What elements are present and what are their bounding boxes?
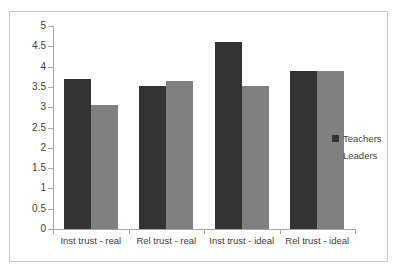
y-axis-tick-label: 4 bbox=[14, 62, 46, 72]
y-axis-tick bbox=[48, 67, 53, 68]
y-axis-tick-label-text: 1.5 bbox=[18, 163, 46, 173]
legend-swatch-icon bbox=[332, 135, 339, 142]
y-axis-tick bbox=[48, 87, 53, 88]
y-axis-tick bbox=[48, 168, 53, 169]
bar-teachers-rel-trust-real[interactable] bbox=[139, 86, 166, 229]
x-axis-tick bbox=[204, 229, 205, 234]
y-axis-tick-label-text: 4 bbox=[18, 62, 46, 72]
bar-leaders-inst-trust-ideal[interactable] bbox=[242, 86, 269, 229]
y-axis-tick-label: 1 bbox=[14, 183, 46, 193]
y-axis-tick-label-text: 4.5 bbox=[18, 41, 46, 51]
legend-item-leaders[interactable]: Leaders bbox=[332, 147, 392, 164]
y-axis-tick bbox=[48, 128, 53, 129]
x-axis-category-label: Rel trust - ideal bbox=[280, 236, 356, 246]
y-axis-tick bbox=[48, 46, 53, 47]
x-axis-tick bbox=[53, 229, 54, 234]
bar-teachers-inst-trust-real[interactable] bbox=[64, 79, 91, 229]
y-axis-tick bbox=[48, 188, 53, 189]
bar-group bbox=[215, 26, 269, 229]
chart-container: 54.543.532.521.510.50 Inst trust - realR… bbox=[9, 11, 388, 262]
bar-group bbox=[139, 26, 193, 229]
y-axis-tick-label: 0.5 bbox=[14, 204, 46, 214]
bar-group bbox=[290, 26, 344, 229]
legend-label: Teachers bbox=[343, 134, 382, 144]
x-axis-category-label: Inst trust - real bbox=[53, 236, 129, 246]
y-axis-line bbox=[53, 26, 54, 230]
bar-teachers-rel-trust-ideal[interactable] bbox=[290, 71, 317, 229]
chart-legend: TeachersLeaders bbox=[332, 130, 392, 164]
x-axis-tick bbox=[129, 229, 130, 234]
y-axis-tick-label-text: 5 bbox=[18, 21, 46, 31]
bar-leaders-rel-trust-real[interactable] bbox=[166, 81, 193, 229]
y-axis-tick-label: 4.5 bbox=[14, 41, 46, 51]
y-axis-tick bbox=[48, 26, 53, 27]
y-axis-tick-label-text: 0.5 bbox=[18, 204, 46, 214]
y-axis-tick-label-text: 3 bbox=[18, 102, 46, 112]
y-axis-tick-label: 1.5 bbox=[14, 163, 46, 173]
x-axis-category-label: Inst trust - ideal bbox=[204, 236, 280, 246]
legend-label: Leaders bbox=[343, 151, 377, 161]
y-axis-tick-label-text: 0 bbox=[18, 224, 46, 234]
legend-swatch-icon bbox=[332, 152, 339, 159]
y-axis-tick-label: 2 bbox=[14, 143, 46, 153]
y-axis-tick-label: 3.5 bbox=[14, 82, 46, 92]
y-axis-tick-label-text: 3.5 bbox=[18, 82, 46, 92]
bar-teachers-inst-trust-ideal[interactable] bbox=[215, 42, 242, 229]
legend-item-teachers[interactable]: Teachers bbox=[332, 130, 392, 147]
y-axis-tick-label: 0 bbox=[14, 224, 46, 234]
bar-leaders-inst-trust-real[interactable] bbox=[91, 105, 118, 229]
x-axis-tick bbox=[280, 229, 281, 234]
y-axis-tick-label-text: 1 bbox=[18, 183, 46, 193]
y-axis-tick-label: 3 bbox=[14, 102, 46, 112]
y-axis-tick-label: 2.5 bbox=[14, 123, 46, 133]
y-axis-tick bbox=[48, 107, 53, 108]
y-axis-tick bbox=[48, 209, 53, 210]
y-axis-tick-label-text: 2.5 bbox=[18, 123, 46, 133]
x-axis-tick bbox=[355, 229, 356, 234]
bar-group bbox=[64, 26, 118, 229]
y-axis-tick-label: 5 bbox=[14, 21, 46, 31]
x-axis-category-label: Rel trust - real bbox=[129, 236, 205, 246]
y-axis-tick bbox=[48, 148, 53, 149]
y-axis-tick-label-text: 2 bbox=[18, 143, 46, 153]
